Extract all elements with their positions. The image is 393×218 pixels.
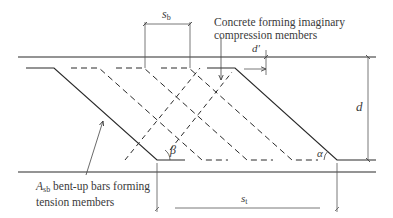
tension-leader-arrow (86, 121, 103, 175)
tension-members-label: Asb bent-up bars forming tension members (36, 180, 150, 209)
compression-members-label: Concrete forming imaginary compression m… (214, 16, 345, 42)
d-label: d (356, 100, 363, 113)
st-label: st (241, 193, 248, 206)
sb-dimension (145, 22, 190, 68)
d-prime-label: d' (252, 43, 260, 54)
bent-up-bar-left (26, 68, 185, 160)
alpha-arc (324, 151, 328, 160)
alpha-label: α (317, 148, 323, 159)
dashed-bent-bars (71, 68, 318, 160)
sb-label: sb (162, 8, 171, 22)
beta-label: β (170, 144, 176, 156)
bent-up-bar-right (207, 68, 376, 160)
